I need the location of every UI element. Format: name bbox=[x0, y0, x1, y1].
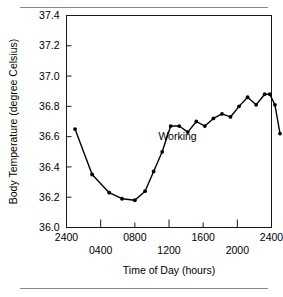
data-point bbox=[152, 170, 156, 174]
data-point bbox=[169, 124, 173, 128]
x-tick-label: 1200 bbox=[157, 244, 181, 256]
data-series-layer bbox=[73, 92, 282, 202]
x-tick-label: 1600 bbox=[191, 231, 215, 243]
data-point bbox=[237, 104, 241, 108]
data-point bbox=[273, 103, 277, 107]
y-axis-tick-labels: 36.036.236.436.636.837.037.237.4 bbox=[39, 9, 60, 233]
x-tick-label: 2400 bbox=[260, 231, 283, 243]
x-axis-ticks bbox=[67, 220, 272, 228]
data-point bbox=[177, 124, 181, 128]
data-point bbox=[263, 92, 267, 96]
x-tick-label: 2400 bbox=[55, 231, 79, 243]
x-tick-label: 0400 bbox=[89, 244, 113, 256]
data-point bbox=[220, 112, 224, 116]
chart-annotations: Working bbox=[158, 130, 196, 142]
y-axis-ticks bbox=[67, 16, 72, 228]
x-tick-label: 2000 bbox=[226, 244, 250, 256]
data-point bbox=[160, 150, 164, 154]
data-point bbox=[73, 127, 77, 131]
data-point bbox=[246, 95, 250, 99]
annotation-working: Working bbox=[158, 130, 196, 142]
y-tick-label: 37.0 bbox=[39, 70, 60, 82]
data-point bbox=[143, 189, 147, 193]
y-tick-label: 36.2 bbox=[39, 191, 60, 203]
y-tick-label: 36.8 bbox=[39, 100, 60, 112]
data-point bbox=[107, 191, 111, 195]
figure-container: 36.036.236.436.636.837.037.237.4 2400040… bbox=[0, 0, 283, 297]
y-tick-label: 37.4 bbox=[39, 9, 60, 21]
y-tick-label: 36.6 bbox=[39, 130, 60, 142]
plot-area-border bbox=[67, 16, 272, 228]
y-tick-label: 37.2 bbox=[39, 39, 60, 51]
data-point bbox=[278, 132, 282, 136]
data-point bbox=[254, 103, 258, 107]
data-point bbox=[203, 124, 207, 128]
x-axis-title: Time of Day (hours) bbox=[123, 264, 215, 276]
data-point bbox=[120, 197, 124, 201]
data-point bbox=[90, 173, 94, 177]
data-point bbox=[212, 117, 216, 121]
y-axis-title: Body Temperature (degree Celsius) bbox=[7, 39, 19, 205]
plot-frame bbox=[67, 16, 272, 228]
line-chart: 36.036.236.436.636.837.037.237.4 2400040… bbox=[0, 0, 283, 297]
x-tick-label: 0800 bbox=[123, 231, 147, 243]
y-tick-label: 36.4 bbox=[39, 161, 60, 173]
series-line-body-temperature bbox=[75, 94, 280, 200]
x-axis-tick-labels: 2400040008001200160020002400 bbox=[55, 231, 283, 256]
data-point bbox=[268, 92, 272, 96]
data-point bbox=[229, 115, 233, 119]
data-point bbox=[133, 198, 137, 202]
data-point bbox=[194, 120, 198, 124]
